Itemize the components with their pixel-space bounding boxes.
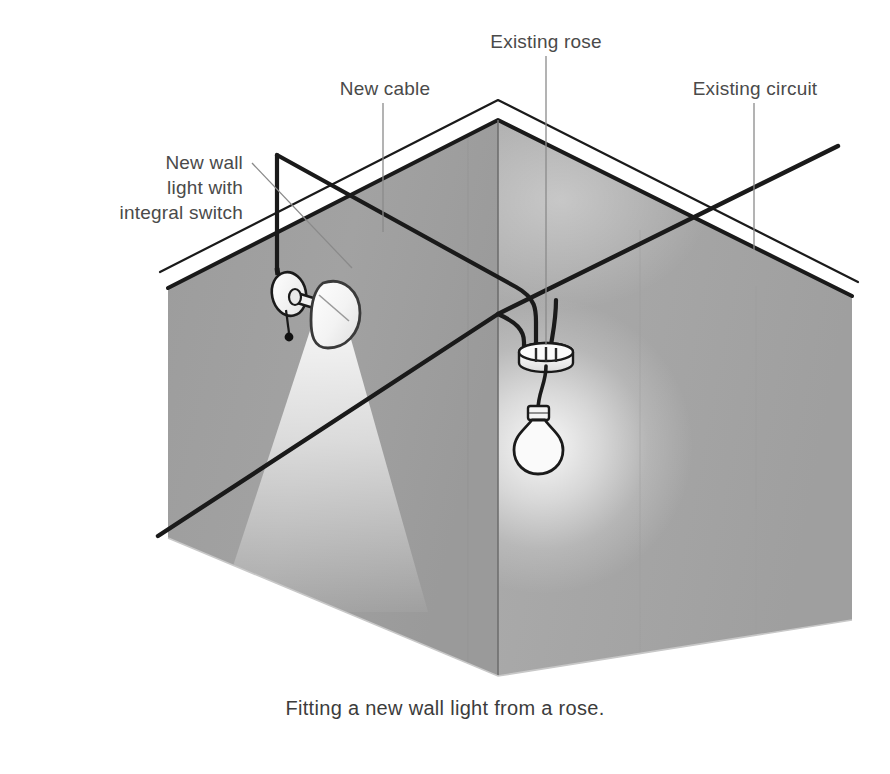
label-new-cable: New cable <box>305 76 465 101</box>
label-existing-circuit: Existing circuit <box>660 76 850 101</box>
pull-cord-ball <box>285 333 294 342</box>
figure-caption: Fitting a new wall light from a rose. <box>0 697 890 720</box>
room-corner-illustration <box>0 0 890 774</box>
illustration-figure: New wall light with integral switch New … <box>0 0 890 774</box>
label-new-wall-light: New wall light with integral switch <box>38 150 243 225</box>
label-existing-rose: Existing rose <box>456 29 636 54</box>
